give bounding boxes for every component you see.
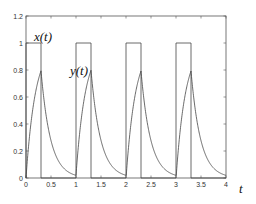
- y-tick-label: 1.2: [13, 13, 23, 20]
- x-tick-label: 0.5: [46, 181, 56, 188]
- x-tick-label: 3.5: [196, 181, 206, 188]
- y-tick-label: 0: [19, 175, 23, 182]
- x-tick-label: 1: [74, 181, 78, 188]
- y-tick-label: 0.8: [13, 67, 23, 74]
- y-tick-label: 0.4: [13, 121, 23, 128]
- x-signal-label: x(t): [33, 29, 52, 44]
- y-tick-label: 0.6: [13, 94, 23, 101]
- y-tick-label: 1: [19, 40, 23, 47]
- chart: 00.511.522.533.5400.20.40.60.811.2 x(t) …: [0, 0, 256, 204]
- x-tick-label: 2.5: [146, 181, 156, 188]
- x-tick-label: 2: [124, 181, 128, 188]
- x-tick-label: 0: [24, 181, 28, 188]
- y-tick-label: 0.2: [13, 148, 23, 155]
- x-tick-label: 1.5: [96, 181, 106, 188]
- x-tick-label: 3: [174, 181, 178, 188]
- y-signal-label: y(t): [68, 63, 88, 78]
- x-signal-line: [26, 43, 226, 178]
- data-series: [26, 43, 226, 178]
- t-axis-label: t: [239, 181, 243, 196]
- x-tick-label: 4: [224, 181, 228, 188]
